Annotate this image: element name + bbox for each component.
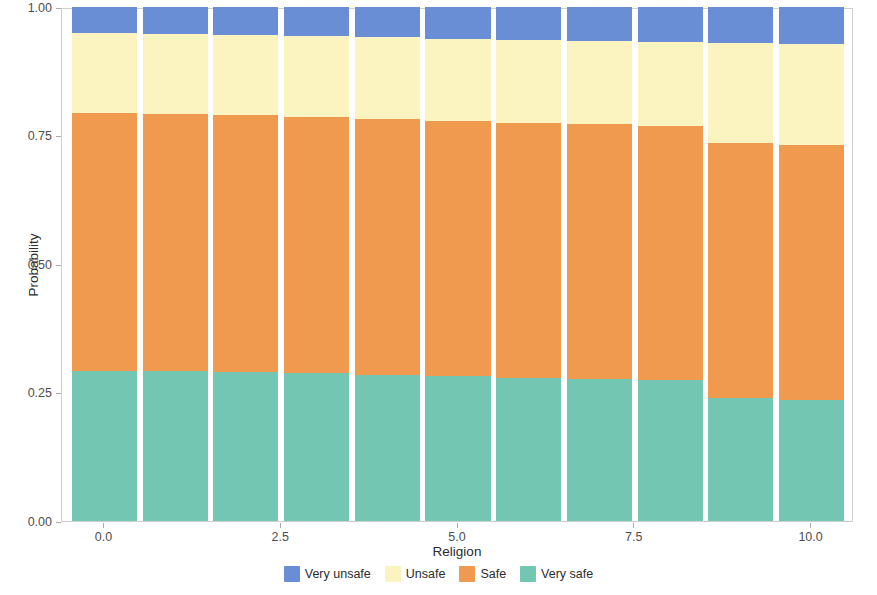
- bar-segment-unsafe: [213, 35, 278, 115]
- legend-entry-very-unsafe: Very unsafe: [279, 566, 376, 582]
- bar-segment-safe: [284, 117, 349, 373]
- bar-segment-very-safe: [213, 372, 278, 521]
- x-axis-tick-mark: [457, 523, 458, 528]
- bar-segment-safe: [779, 145, 844, 400]
- bar-segment-unsafe: [355, 37, 420, 118]
- stacked-bar: [425, 7, 490, 521]
- x-axis-tick-label: 2.5: [272, 531, 289, 544]
- bar-segment-safe: [355, 119, 420, 375]
- stacked-bar: [143, 7, 208, 521]
- y-axis-tick-label: 0.75: [28, 130, 56, 143]
- bar-segment-safe: [425, 121, 490, 376]
- bar-segment-very-unsafe: [143, 7, 208, 34]
- y-axis-tick-label: 0.50: [28, 259, 56, 272]
- y-axis-tick-label: 0.00: [28, 516, 56, 529]
- y-axis-ticks: 0.000.250.500.751.00: [0, 8, 61, 522]
- stacked-bar: [284, 7, 349, 521]
- x-axis-tick-label: 5.0: [448, 531, 465, 544]
- bar-segment-very-unsafe: [708, 7, 773, 43]
- bar-segment-unsafe: [496, 40, 561, 123]
- bar-segment-very-unsafe: [72, 7, 137, 33]
- stacked-bar: [638, 7, 703, 521]
- legend-swatch-icon: [385, 566, 401, 582]
- bar-segment-unsafe: [284, 36, 349, 117]
- bar-segment-safe: [72, 113, 137, 371]
- bar-segment-safe: [638, 126, 703, 380]
- y-axis-tick-label: 0.25: [28, 387, 56, 400]
- stacked-bar: [72, 7, 137, 521]
- bar-segment-safe: [708, 143, 773, 398]
- legend-swatch-icon: [520, 566, 536, 582]
- bar-segment-very-safe: [638, 380, 703, 521]
- x-axis-tick-label: 10.0: [798, 531, 822, 544]
- legend-label: Very safe: [541, 568, 593, 581]
- bar-segment-very-unsafe: [425, 7, 490, 39]
- bar-segment-very-safe: [496, 378, 561, 521]
- bar-segment-unsafe: [567, 41, 632, 124]
- x-axis-tick-mark: [810, 523, 811, 528]
- chart-legend: Very unsafeUnsafeSafeVery safe: [0, 566, 877, 582]
- legend-entry-safe: Safe: [454, 566, 511, 582]
- bar-segment-unsafe: [638, 42, 703, 126]
- bar-segment-very-safe: [779, 400, 844, 521]
- stacked-bar: [496, 7, 561, 521]
- bar-segment-very-safe: [425, 376, 490, 521]
- bar-segment-very-unsafe: [284, 7, 349, 36]
- bar-segment-safe: [143, 114, 208, 372]
- chart-page: Probability 0.000.250.500.751.00 0.02.55…: [0, 0, 877, 595]
- legend-label: Unsafe: [406, 568, 446, 581]
- bar-segment-very-safe: [284, 373, 349, 521]
- x-axis-tick-mark: [103, 523, 104, 528]
- x-axis-tick-label: 0.0: [95, 531, 112, 544]
- bar-segment-unsafe: [143, 34, 208, 114]
- bar-segment-safe: [496, 123, 561, 378]
- y-axis-tick-label: 1.00: [28, 2, 56, 15]
- legend-swatch-icon: [284, 566, 300, 582]
- bar-segment-very-unsafe: [638, 7, 703, 42]
- x-axis-tick-mark: [280, 523, 281, 528]
- bar-segment-very-unsafe: [496, 7, 561, 40]
- bar-segment-very-safe: [708, 398, 773, 521]
- bar-segment-very-unsafe: [779, 7, 844, 44]
- legend-label: Very unsafe: [305, 568, 371, 581]
- bar-segment-unsafe: [779, 44, 844, 145]
- plot-area: [62, 9, 852, 521]
- x-axis-title: Religion: [61, 544, 853, 559]
- bar-segment-very-safe: [143, 371, 208, 521]
- bar-segment-unsafe: [72, 33, 137, 113]
- x-axis-tick-label: 7.5: [625, 531, 642, 544]
- stacked-bar: [708, 7, 773, 521]
- bar-segment-very-unsafe: [567, 7, 632, 41]
- bar-segment-very-unsafe: [213, 7, 278, 35]
- bar-segment-very-safe: [567, 379, 632, 521]
- bar-segment-very-safe: [72, 371, 137, 521]
- bar-segment-unsafe: [425, 39, 490, 121]
- bar-segment-safe: [567, 124, 632, 378]
- bar-segment-unsafe: [708, 43, 773, 143]
- stacked-bar: [355, 7, 420, 521]
- bar-segment-very-unsafe: [355, 7, 420, 37]
- bar-segment-very-safe: [355, 375, 420, 521]
- stacked-bar: [779, 7, 844, 521]
- legend-label: Safe: [480, 568, 506, 581]
- plot-panel: [61, 8, 853, 522]
- stacked-bar: [567, 7, 632, 521]
- legend-entry-unsafe: Unsafe: [380, 566, 451, 582]
- legend-swatch-icon: [459, 566, 475, 582]
- bar-segment-safe: [213, 115, 278, 372]
- x-axis-tick-mark: [633, 523, 634, 528]
- legend-entry-very-safe: Very safe: [515, 566, 598, 582]
- stacked-bar: [213, 7, 278, 521]
